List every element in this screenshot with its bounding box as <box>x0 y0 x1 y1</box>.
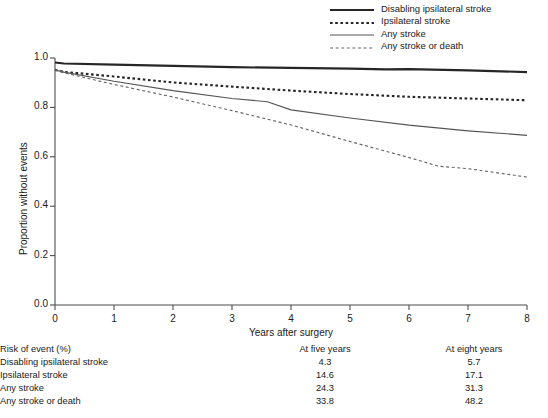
row-eight-years-value: 31.3 <box>400 383 548 396</box>
table-header-eight-years: At eight years <box>400 344 548 357</box>
x-axis-tick-label: 1 <box>102 313 126 324</box>
table-row: Any stroke or death 33.8 48.2 <box>0 396 548 409</box>
survival-curve-figure: Disabling ipsilateral stroke Ipsilateral… <box>0 0 548 418</box>
table-header-row: Risk of event (%) At five years At eight… <box>0 344 548 357</box>
x-axis-ticks <box>55 305 527 310</box>
row-five-years-value: 33.8 <box>250 396 400 409</box>
data-series-group <box>55 62 527 177</box>
x-axis-tick-label: 4 <box>279 313 303 324</box>
x-axis-tick-label: 0 <box>43 313 67 324</box>
y-axis-title: Proportion without events <box>18 142 29 255</box>
table-row: Disabling ipsilateral stroke 4.3 5.7 <box>0 357 548 370</box>
row-eight-years-value: 48.2 <box>400 396 548 409</box>
x-axis-title: Years after surgery <box>191 327 391 338</box>
y-axis-tick-label: 0.0 <box>24 298 48 309</box>
row-label: Any stroke <box>0 383 250 396</box>
row-five-years-value: 14.6 <box>250 370 400 383</box>
x-axis-tick-label: 7 <box>456 313 480 324</box>
x-axis-tick-label: 3 <box>220 313 244 324</box>
series-line <box>55 62 527 72</box>
y-axis-tick-label: 1.0 <box>24 51 48 62</box>
x-axis-tick-label: 5 <box>338 313 362 324</box>
series-line <box>55 70 527 177</box>
x-axis-tick-label: 2 <box>161 313 185 324</box>
row-eight-years-value: 17.1 <box>400 370 548 383</box>
axis-lines <box>55 58 527 305</box>
table-row: Ipsilateral stroke 14.6 17.1 <box>0 370 548 383</box>
series-line <box>55 70 527 100</box>
row-five-years-value: 4.3 <box>250 357 400 370</box>
plot-area <box>0 0 548 344</box>
table-row: Any stroke 24.3 31.3 <box>0 383 548 396</box>
x-axis-tick-label: 8 <box>515 313 539 324</box>
table-header-label: Risk of event (%) <box>0 344 250 357</box>
row-five-years-value: 24.3 <box>250 383 400 396</box>
y-axis-tick-label: 0.8 <box>24 100 48 111</box>
risk-of-event-table: Risk of event (%) At five years At eight… <box>0 344 548 414</box>
row-eight-years-value: 5.7 <box>400 357 548 370</box>
x-axis-tick-label: 6 <box>397 313 421 324</box>
y-axis-ticks <box>50 58 55 305</box>
row-label: Disabling ipsilateral stroke <box>0 357 250 370</box>
row-label: Ipsilateral stroke <box>0 370 250 383</box>
row-label: Any stroke or death <box>0 396 250 409</box>
table-header-five-years: At five years <box>250 344 400 357</box>
